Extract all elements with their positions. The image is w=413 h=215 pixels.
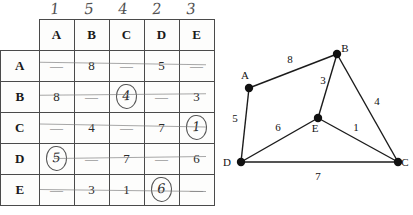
circled-value-annotation: 6: [150, 176, 172, 202]
matrix-body: A—8—5—B8—4—3C—4—71D5—7—6E—316—: [1, 50, 215, 205]
graph-node-a[interactable]: [245, 84, 253, 92]
row-header-c: C: [1, 112, 40, 143]
column-order-mark-5: 3: [173, 0, 208, 21]
matrix-cell-a-c[interactable]: —: [109, 50, 144, 81]
matrix-cell-e-e[interactable]: —: [179, 174, 214, 205]
table-row: D5—7—6: [1, 143, 215, 174]
graph-nodes-group: ABCDE: [223, 42, 409, 168]
edge-weight-d-c: 7: [315, 170, 321, 182]
column-header-c: C: [109, 20, 144, 51]
edge-weight-a-b: 8: [287, 53, 293, 65]
column-header-d: D: [144, 20, 179, 51]
table-row: B8—4—3: [1, 81, 215, 112]
column-order-mark-2: 5: [71, 0, 106, 21]
column-header-b: B: [74, 20, 109, 51]
matrix-cell-c-c[interactable]: —: [109, 112, 144, 143]
graph-node-d[interactable]: [237, 158, 245, 166]
matrix-cell-d-b[interactable]: —: [74, 143, 109, 174]
matrix-cell-e-a[interactable]: —: [39, 174, 74, 205]
graph-node-b[interactable]: [333, 50, 341, 58]
graph-edges-group: [241, 54, 398, 162]
graph-edge-b-e: [318, 54, 337, 118]
adjacency-matrix-table: A B C D E A—8—5—B8—4—3C—4—71D5—7—6E—316—: [0, 19, 215, 206]
column-order-mark-3: 4: [105, 0, 140, 21]
graph-edge-a-d: [241, 88, 249, 162]
edge-weight-e-c: 1: [353, 121, 359, 133]
circled-value-annotation: 1: [185, 114, 207, 140]
matrix-cell-b-a[interactable]: 8: [39, 81, 74, 112]
row-header-b: B: [1, 81, 40, 112]
matrix-cell-d-c[interactable]: 7: [109, 143, 144, 174]
graph-node-label-b: B: [341, 42, 348, 54]
table-row: E—316—: [1, 174, 215, 205]
graph-node-label-d: D: [223, 156, 231, 168]
matrix-cell-e-c[interactable]: 1: [109, 174, 144, 205]
column-header-e: E: [179, 20, 214, 51]
matrix-cell-d-d[interactable]: —: [144, 143, 179, 174]
matrix-corner-cell: [1, 20, 40, 51]
matrix-cell-b-d[interactable]: —: [144, 81, 179, 112]
matrix-header-row: A B C D E: [1, 20, 215, 51]
graph-node-label-e: E: [312, 122, 319, 134]
edge-weight-b-e: 3: [320, 74, 326, 86]
edge-weight-b-c: 4: [374, 95, 380, 107]
matrix-cell-d-e[interactable]: 6: [179, 143, 214, 174]
matrix-cell-a-b[interactable]: 8: [74, 50, 109, 81]
matrix-cell-a-a[interactable]: —: [39, 50, 74, 81]
matrix-cell-a-e[interactable]: —: [179, 50, 214, 81]
matrix-cell-c-e[interactable]: 1: [179, 112, 214, 143]
matrix-cell-b-e[interactable]: 3: [179, 81, 214, 112]
matrix-cell-d-a[interactable]: 5: [39, 143, 74, 174]
matrix-cell-c-b[interactable]: 4: [74, 112, 109, 143]
graph-node-e[interactable]: [314, 114, 322, 122]
matrix-cell-b-c[interactable]: 4: [109, 81, 144, 112]
graph-node-label-a: A: [241, 69, 249, 81]
column-order-mark-4: 2: [139, 0, 174, 21]
graph-node-label-c: C: [401, 156, 408, 168]
row-header-a: A: [1, 50, 40, 81]
table-row: C—4—71: [1, 112, 215, 143]
matrix-cell-c-d[interactable]: 7: [144, 112, 179, 143]
matrix-cell-a-d[interactable]: 5: [144, 50, 179, 81]
edge-weight-a-d: 5: [232, 112, 238, 124]
edge-weight-d-e: 6: [275, 121, 281, 133]
weighted-graph-diagram: 8534617 ABCDE: [210, 0, 413, 215]
matrix-cell-c-a[interactable]: —: [39, 112, 74, 143]
matrix-cell-e-b[interactable]: 3: [74, 174, 109, 205]
row-header-e: E: [1, 174, 40, 205]
column-order-mark-1: 1: [37, 0, 72, 21]
circled-value-annotation: 4: [115, 83, 137, 109]
matrix-cell-b-b[interactable]: —: [74, 81, 109, 112]
table-row: A—8—5—: [1, 50, 215, 81]
column-header-a: A: [39, 20, 74, 51]
matrix-cell-e-d[interactable]: 6: [144, 174, 179, 205]
row-header-d: D: [1, 143, 40, 174]
adjacency-matrix-panel: 1 5 4 2 3 A B C D E A—8—5—B8—4—3C—4—71D5…: [0, 0, 210, 215]
weighted-graph-panel: 8534617 ABCDE: [210, 0, 413, 215]
circled-value-annotation: 5: [45, 145, 67, 171]
